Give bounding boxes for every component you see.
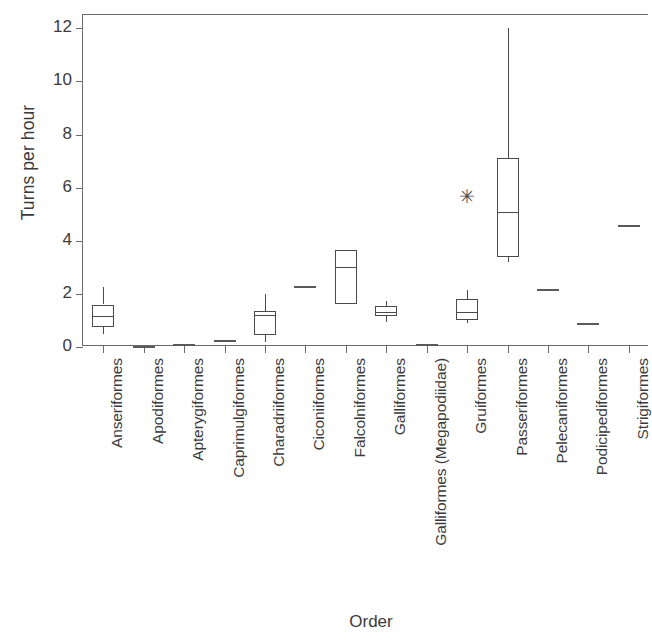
y-tick-label: 2 xyxy=(32,283,72,303)
whisker-lower xyxy=(103,327,104,334)
boxplot-pelecaniformes xyxy=(537,15,559,345)
x-tick-mark xyxy=(386,345,387,353)
y-axis-title: Turns per hour xyxy=(18,73,39,253)
x-tick-mark xyxy=(305,345,306,353)
boxplot-apodiformes xyxy=(133,15,155,345)
boxplot-charadriiformes xyxy=(254,15,276,345)
y-tick-mark xyxy=(76,188,83,189)
boxplot-gruiformes: ✳ xyxy=(456,15,478,345)
y-tick-label: 12 xyxy=(32,17,72,37)
x-tick-mark xyxy=(265,345,266,353)
single-value-line xyxy=(537,289,559,291)
x-tick-mark xyxy=(467,345,468,353)
single-value-line xyxy=(214,340,236,342)
boxplot-apterygiformes xyxy=(173,15,195,345)
median-line xyxy=(375,312,397,313)
whisker-upper xyxy=(265,294,266,311)
median-line xyxy=(497,212,519,213)
boxplot-galliformes-megapodiidae xyxy=(416,15,438,345)
plot-inner: ✳ xyxy=(83,15,648,345)
x-tick-mark xyxy=(548,345,549,353)
median-line xyxy=(254,315,276,316)
x-axis-title-text: Order xyxy=(349,612,392,631)
boxplot-galliformes xyxy=(375,15,397,345)
median-line xyxy=(456,312,478,313)
y-tick-mark xyxy=(76,28,83,29)
y-tick-label: 6 xyxy=(32,177,72,197)
boxplot-podicipediformes xyxy=(577,15,599,345)
x-tick-mark xyxy=(346,345,347,353)
median-line xyxy=(92,316,114,317)
whisker-lower xyxy=(386,316,387,321)
x-tick-label: Caprimulgiformes xyxy=(230,358,248,478)
x-tick-label: Apterygiformes xyxy=(189,358,207,461)
x-tick-label: Falcolniformes xyxy=(351,358,369,457)
x-tick-label: Podicipediformes xyxy=(593,358,611,475)
whisker-lower xyxy=(265,335,266,342)
x-tick-mark xyxy=(588,345,589,353)
x-tick-label: Charadriiformes xyxy=(270,358,288,467)
outlier-marker: ✳ xyxy=(459,186,475,205)
single-value-line xyxy=(133,346,155,348)
whisker-upper xyxy=(508,28,509,158)
y-tick-mark xyxy=(76,241,83,242)
single-value-line xyxy=(173,344,195,346)
whisker-upper xyxy=(103,287,104,304)
whisker-lower xyxy=(508,257,509,262)
y-tick-mark xyxy=(76,347,83,348)
x-tick-mark xyxy=(508,345,509,353)
x-tick-mark xyxy=(103,345,104,353)
x-axis-category-labels: AnseriformesApodiformesApterygiformesCap… xyxy=(82,358,648,608)
x-tick-label: Galliformes xyxy=(391,358,409,435)
single-value-line xyxy=(577,323,599,325)
y-tick-label: 0 xyxy=(32,336,72,356)
boxplot-caprimulgiformes xyxy=(214,15,236,345)
x-tick-mark xyxy=(629,345,630,353)
x-tick-label: Galliformes (Megapodiidae) xyxy=(432,358,450,546)
box-iqr xyxy=(497,158,519,256)
whisker-lower xyxy=(467,320,468,323)
x-tick-label: Strigiformes xyxy=(634,358,652,440)
single-value-line xyxy=(294,286,316,288)
boxplot-strigiformes xyxy=(618,15,640,345)
y-tick-label: 4 xyxy=(32,230,72,250)
x-tick-label: Pelecaniformes xyxy=(553,358,571,463)
box-iqr xyxy=(456,299,478,320)
y-tick-label: 8 xyxy=(32,124,72,144)
whisker-upper xyxy=(467,290,468,299)
y-tick-mark xyxy=(76,294,83,295)
y-tick-mark xyxy=(76,81,83,82)
box-iqr xyxy=(375,306,397,317)
box-iqr xyxy=(335,250,357,304)
boxplot-anseriformes xyxy=(92,15,114,345)
plot-area: ✳ xyxy=(82,14,648,346)
boxplot-passeriformes xyxy=(497,15,519,345)
x-tick-mark xyxy=(225,345,226,353)
boxplot-falcolniformes xyxy=(335,15,357,345)
x-tick-label: Ciconiiformes xyxy=(310,358,328,451)
x-tick-label: Passeriformes xyxy=(513,358,531,456)
y-tick-label: 10 xyxy=(32,70,72,90)
single-value-line xyxy=(416,344,438,346)
x-tick-label: Gruiformes xyxy=(472,358,490,434)
x-tick-label: Apodiformes xyxy=(149,358,167,444)
median-line xyxy=(335,267,357,268)
boxplot-ciconiiformes xyxy=(294,15,316,345)
single-value-line xyxy=(618,225,640,227)
x-tick-label: Anseriformes xyxy=(108,358,126,448)
y-tick-mark xyxy=(76,135,83,136)
x-axis-title: Order xyxy=(0,612,650,632)
